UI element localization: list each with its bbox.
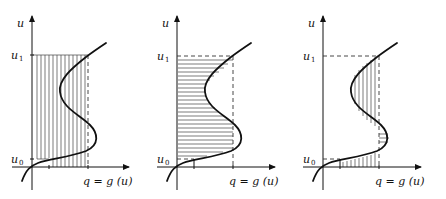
svg-text:u: u xyxy=(11,153,18,166)
u-axis-label: u xyxy=(17,17,24,30)
svg-text:1: 1 xyxy=(19,55,23,63)
u-axis-label: u xyxy=(162,17,169,30)
svg-text:u: u xyxy=(157,153,164,166)
u1-label: u 1 xyxy=(157,50,169,64)
curve-g xyxy=(22,43,106,181)
u1-label: u 1 xyxy=(303,50,315,64)
q-axis-label: q = g (u) xyxy=(375,175,424,188)
svg-text:u: u xyxy=(303,50,310,63)
panel-1: u u 1 u 0 q = g (u) xyxy=(11,16,132,190)
panel-3: u u 1 u 0 q = g (u) xyxy=(303,16,424,190)
u0-label: u 0 xyxy=(11,153,23,167)
svg-text:0: 0 xyxy=(165,159,169,167)
svg-text:1: 1 xyxy=(311,56,315,64)
u-axis-label: u xyxy=(308,17,315,30)
figure: u u 1 u 0 q = g (u) xyxy=(0,0,446,199)
svg-text:u: u xyxy=(303,153,310,166)
svg-text:1: 1 xyxy=(165,56,169,64)
vertical-hatching xyxy=(33,55,88,167)
svg-text:u: u xyxy=(11,49,18,62)
svg-text:0: 0 xyxy=(311,159,315,167)
horizontal-hatching xyxy=(178,60,233,156)
u0-label: u 0 xyxy=(157,153,169,167)
svg-text:0: 0 xyxy=(19,159,23,167)
svg-text:u: u xyxy=(157,50,164,63)
q-axis-label: q = g (u) xyxy=(83,175,132,188)
panel-2: u u 1 u 0 q = g (u) xyxy=(157,16,278,190)
u0-label: u 0 xyxy=(303,153,315,167)
u1-label: u 1 xyxy=(11,49,23,63)
q-axis-label: q = g (u) xyxy=(229,175,278,188)
